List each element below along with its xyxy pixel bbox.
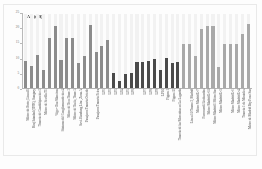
chart-bar (124, 74, 127, 88)
x-axis-category-label: Tranvia de las Morenitas en La Legarda (179, 89, 183, 140)
chart-bar (77, 63, 80, 88)
chart-bar (171, 63, 174, 88)
x-axis-category-label: Pasajeros Tranvia Feira (97, 89, 101, 119)
y-axis-tick-mark (20, 13, 22, 14)
x-axis-category-label: Metro Madrid L-3 (220, 89, 224, 113)
y-axis-tick-mark (20, 28, 22, 29)
chart-bar (112, 73, 115, 88)
x-axis-category-label: Metro Madrid L-7 (197, 89, 201, 113)
chart-bar (153, 59, 156, 88)
x-axis-category-label: Metro do Porto, Linea B (27, 89, 31, 121)
chart-bar (48, 38, 51, 88)
chart-bar (106, 40, 109, 88)
plot-area (23, 14, 251, 88)
chart-bar (235, 44, 238, 88)
y-axis-tick-label: 5 (10, 72, 19, 75)
chart-bar (130, 73, 133, 88)
y-axis-tick-label: 15 (10, 42, 19, 45)
chart-bar (54, 26, 57, 88)
x-axis-category-label: Metro Madrid 1 Metro Sur (214, 89, 218, 124)
x-axis-category-label: Tranvia de Guadalajara tier 2 (39, 89, 43, 126)
x-axis-category-label: Tranvia 1 de Mostoles (243, 89, 247, 118)
x-axis-category-label: Figura 12 (173, 89, 177, 101)
y-axis-tick-mark (20, 43, 22, 44)
x-axis-category-label: Kraj Istanbul (IFFR), Sungary (33, 89, 37, 128)
x-axis-label-group: Metro do Porto, Linea BKraj Istanbul (IF… (23, 89, 251, 159)
bar-background-stem (118, 14, 121, 88)
chart-bar (95, 52, 98, 88)
x-axis-category-label: LP10 (162, 89, 166, 96)
chart-bar (206, 26, 209, 88)
y-axis-tick-mark (20, 89, 22, 90)
chart-bar (71, 38, 74, 88)
chart-bar (247, 24, 250, 88)
chart-bar (135, 62, 138, 88)
x-axis-category-label: Metro Madrid L-1 (232, 89, 236, 113)
x-axis-category-label: Metro Madrid L-10 (208, 89, 212, 114)
chart-bar (188, 44, 191, 88)
chart-bar (159, 70, 162, 88)
chart-bar (36, 55, 39, 88)
x-axis-category-label: Metro Madrid L-4 (238, 89, 242, 113)
x-axis-category-label: LP4 (121, 89, 125, 94)
chart-bar (30, 66, 33, 88)
chart-bar (118, 81, 121, 88)
chart-bar (83, 56, 86, 88)
chart-bar (229, 44, 232, 88)
chart-bar (89, 25, 92, 88)
chart-bar (100, 46, 103, 88)
x-axis-category-label: Vigo - Das Maceiras (56, 89, 60, 116)
x-axis-category-label: LP8 (150, 89, 154, 94)
x-axis-category-label: Linea 10 Tramo 2, Madrid (191, 89, 195, 123)
chart-bar (223, 44, 226, 88)
x-axis-category-label: LP9 (156, 89, 160, 94)
x-axis-category-label: Ferrocarril Alcobendas (203, 89, 207, 119)
x-axis-category-label: LP1 (103, 89, 107, 94)
chart-bar (194, 56, 197, 88)
x-axis-category-label: LP5 (127, 89, 131, 94)
chart-bar (165, 58, 168, 88)
x-axis-category-label: LP7 (144, 89, 148, 94)
chart-bar (200, 29, 203, 88)
chart-bar (141, 62, 144, 88)
x-axis-category-label: Pasajeros Tranvia Oviedo (86, 89, 90, 122)
x-axis-category-label: Metro de Madrid Rty Pozo Sur (249, 89, 253, 129)
x-axis-category-label: Metro de Tren Tram 3 (68, 89, 72, 118)
chart-bar (59, 60, 62, 88)
y-axis-tick-label: 25 (10, 11, 19, 14)
chart-bar (182, 44, 185, 88)
y-axis-tick-mark (20, 59, 22, 60)
chart-bar (217, 67, 220, 88)
x-axis-category-label: Sevi. Bandung Line, Zona A (80, 89, 84, 126)
chart-figure: 0510152025 AR (us$) Metro do Porto, Line… (0, 0, 262, 169)
chart-bar (65, 38, 68, 88)
x-axis-category-label: Sistema del Conglomerado tier 4 (62, 89, 66, 131)
chart-bar (42, 70, 45, 88)
chart-bar (241, 34, 244, 88)
y-axis-tick-label: 10 (10, 57, 19, 60)
y-axis-tick-mark (20, 74, 22, 75)
x-axis-category-label: LP2 (109, 89, 113, 94)
chart-bar (176, 62, 179, 88)
y-axis-tick-label: 0 (10, 87, 19, 90)
chart-bar (24, 61, 27, 88)
x-axis-category-label: Metro de Tuela, Tram 5 (74, 89, 78, 120)
x-axis-category-label: LP6 (132, 89, 136, 94)
chart-bar (147, 61, 150, 88)
x-axis-category-label: Metro de Sevilla T1 (45, 89, 49, 115)
x-axis-category-label: LP3 (115, 89, 119, 94)
x-axis-category-label: Figura 1 (167, 89, 171, 100)
chart-bar (211, 26, 214, 88)
y-axis-tick-label: 20 (10, 26, 19, 29)
